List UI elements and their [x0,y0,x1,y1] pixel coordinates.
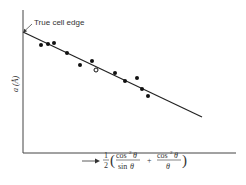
data-point [135,76,139,80]
data-point [113,71,117,75]
arrow-right-icon [95,159,100,164]
svg-text:cos: cos [116,151,127,160]
data-point-open [94,68,98,72]
y-axis-label: a (Å) [11,76,20,93]
paren-close: ) [182,152,187,169]
data-point [39,43,43,47]
data-point [65,51,69,55]
svg-text:θ: θ [166,162,170,171]
data-point [146,94,150,98]
data-points [39,41,150,98]
svg-text:θ: θ [174,151,178,160]
data-point [46,42,50,46]
svg-text:+: + [147,156,152,165]
data-point [52,41,56,45]
data-point [123,79,127,83]
paren-open: ( [110,152,115,169]
svg-text:cos: cos [157,151,168,160]
chart: True cell edge a (Å) 1 2 ( cos 2 θ sin θ… [0,0,246,185]
svg-text:1: 1 [104,151,108,160]
data-point [90,59,94,63]
svg-text:θ: θ [133,151,137,160]
data-point [78,63,82,67]
data-point [140,87,144,91]
svg-text:2: 2 [104,161,108,170]
svg-text:sin: sin [118,162,127,171]
svg-text:a (Å): a (Å) [11,76,20,93]
svg-text:θ: θ [130,162,134,171]
annotation-label: True cell edge [34,18,85,27]
